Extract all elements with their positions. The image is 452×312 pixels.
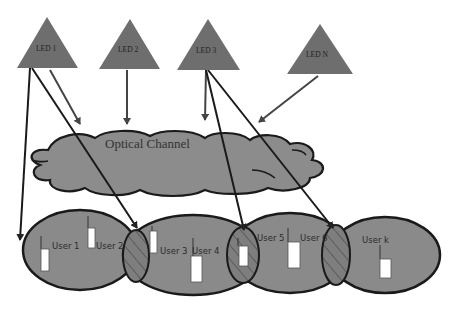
led-1-label: LED 1 <box>36 44 56 53</box>
arrow-led1-user1 <box>20 68 30 240</box>
vlc-diagram: User 1 User 2 User 3 User 4 User 5 User … <box>0 0 452 312</box>
user-label-4: User 4 <box>192 246 219 256</box>
user-label-1: User 1 <box>52 241 79 251</box>
optical-channel-cloud: Optical Channel <box>32 131 323 196</box>
arrow-led1-cloud <box>50 70 80 124</box>
optical-channel-label: Optical Channel <box>105 136 190 151</box>
arrow-led3-cloud <box>205 70 206 120</box>
device-user-1 <box>41 249 49 271</box>
device-user-3 <box>150 231 157 253</box>
device-user-k <box>380 259 391 278</box>
user-label-3: User 3 <box>160 246 187 256</box>
led-3-label: LED 3 <box>196 46 216 55</box>
leds: LED 1 LED 2 LED 3 LED N <box>17 17 353 74</box>
device-user-4 <box>191 256 202 282</box>
led-3: LED 3 <box>177 19 240 70</box>
user-cells <box>23 210 440 295</box>
led-2-label: LED 2 <box>118 45 138 54</box>
led-n-label: LED N <box>306 50 328 59</box>
user-label-2: User 2 <box>96 241 123 251</box>
device-user-5 <box>239 246 248 266</box>
overlap-region-1 <box>123 230 149 282</box>
led-n: LED N <box>287 24 353 74</box>
user-label-5: User 5 <box>257 233 284 243</box>
user-label-k: User k <box>362 235 389 245</box>
device-user-2 <box>88 228 95 248</box>
user-label-6: User 6 <box>300 233 327 243</box>
led-1: LED 1 <box>17 17 78 68</box>
arrow-ledn-cloud <box>259 76 318 122</box>
led-2: LED 2 <box>99 19 160 69</box>
device-user-6 <box>288 242 300 268</box>
